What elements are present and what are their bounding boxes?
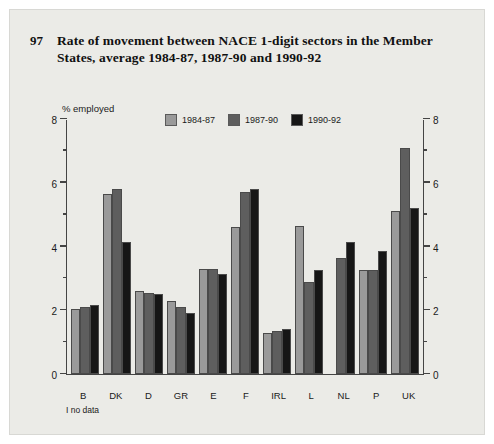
bar-group-GR — [165, 120, 197, 374]
x-tick-label-F: F — [243, 390, 249, 401]
bar-group-UK — [389, 120, 421, 374]
bar-L-1984-87 — [295, 226, 304, 374]
bar-group-D — [133, 120, 165, 374]
y-tick-right-8 — [423, 118, 430, 119]
bar-chart: % employed 1984-871987-901990-92 0022446… — [10, 10, 484, 434]
bar-GR-1987-90 — [176, 307, 185, 374]
bar-UK-1984-87 — [391, 211, 400, 374]
bar-DK-1984-87 — [103, 194, 112, 374]
y-tick-label-left-0: 0 — [37, 370, 57, 381]
y-tick-label-right-6: 6 — [433, 178, 453, 189]
x-tick-label-DK: DK — [109, 390, 122, 401]
bar-L-1990-92 — [314, 270, 323, 374]
bar-D-1990-92 — [154, 294, 163, 374]
bar-F-1984-87 — [231, 227, 240, 374]
y-axis-label: % employed — [62, 103, 114, 114]
bar-group-L — [293, 120, 325, 374]
bar-E-1984-87 — [199, 269, 208, 374]
bar-P-1984-87 — [359, 270, 368, 374]
bar-E-1987-90 — [208, 269, 217, 374]
bar-DK-1990-92 — [122, 242, 131, 374]
y-tick-label-left-8: 8 — [37, 115, 57, 126]
y-tick-left-3 — [63, 277, 67, 278]
bar-IRL-1987-90 — [272, 331, 281, 374]
y-tick-left-0 — [60, 373, 67, 374]
y-tick-right-7 — [423, 149, 427, 150]
bar-IRL-1990-92 — [282, 329, 291, 374]
bar-B-1990-92 — [90, 305, 99, 374]
y-tick-label-left-2: 2 — [37, 306, 57, 317]
bar-D-1984-87 — [135, 291, 144, 374]
bar-groups — [67, 120, 423, 374]
y-tick-left-2 — [60, 309, 67, 310]
y-tick-right-3 — [423, 277, 427, 278]
bar-B-1987-90 — [80, 307, 89, 374]
y-tick-left-5 — [63, 213, 67, 214]
y-tick-right-0 — [423, 373, 430, 374]
bar-B-1984-87 — [71, 309, 80, 374]
y-tick-right-4 — [423, 245, 430, 246]
bar-group-P — [357, 120, 389, 374]
y-tick-label-left-4: 4 — [37, 242, 57, 253]
y-tick-label-right-8: 8 — [433, 115, 453, 126]
bar-D-1987-90 — [144, 293, 153, 374]
y-tick-left-4 — [60, 245, 67, 246]
x-tick-label-D: D — [145, 390, 152, 401]
y-tick-right-5 — [423, 213, 427, 214]
x-tick-label-UK: UK — [402, 390, 415, 401]
bar-NL-1990-92 — [346, 242, 355, 374]
x-tick-label-L: L — [308, 390, 313, 401]
bar-E-1990-92 — [218, 274, 227, 374]
bar-group-E — [197, 120, 229, 374]
y-tick-right-6 — [423, 181, 430, 182]
bar-group-B — [69, 120, 101, 374]
bar-UK-1990-92 — [410, 208, 419, 374]
bar-group-IRL — [261, 120, 293, 374]
bar-group-F — [229, 120, 261, 374]
bar-group-NL — [325, 120, 357, 374]
plot-area: 0022446688BDKDGREFIRLLNLPUK — [66, 120, 424, 375]
bar-F-1990-92 — [250, 189, 259, 374]
y-tick-left-6 — [60, 181, 67, 182]
bar-GR-1990-92 — [186, 313, 195, 374]
y-tick-left-1 — [63, 341, 67, 342]
figure-page: 97 Rate of movement between NACE 1-digit… — [10, 10, 484, 434]
chart-footnote: I no data — [66, 405, 99, 415]
bar-IRL-1984-87 — [263, 333, 272, 374]
x-tick-label-P: P — [373, 390, 379, 401]
y-tick-label-right-4: 4 — [433, 242, 453, 253]
y-tick-label-left-6: 6 — [37, 178, 57, 189]
bar-P-1990-92 — [378, 251, 387, 374]
bar-L-1987-90 — [304, 282, 313, 374]
y-tick-right-2 — [423, 309, 430, 310]
x-tick-label-B: B — [80, 390, 86, 401]
bar-F-1987-90 — [240, 192, 249, 374]
y-tick-left-8 — [60, 118, 67, 119]
y-tick-label-right-0: 0 — [433, 370, 453, 381]
bar-UK-1987-90 — [400, 148, 409, 374]
bar-P-1987-90 — [368, 270, 377, 374]
bar-group-DK — [101, 120, 133, 374]
bar-NL-1987-90 — [336, 258, 345, 374]
y-tick-left-7 — [63, 149, 67, 150]
y-tick-label-right-2: 2 — [433, 306, 453, 317]
x-tick-label-E: E — [210, 390, 216, 401]
y-tick-right-1 — [423, 341, 427, 342]
bar-GR-1984-87 — [167, 301, 176, 374]
x-tick-label-NL: NL — [338, 390, 350, 401]
x-tick-label-IRL: IRL — [271, 390, 286, 401]
x-tick-label-GR: GR — [174, 390, 188, 401]
bar-DK-1987-90 — [112, 189, 121, 374]
